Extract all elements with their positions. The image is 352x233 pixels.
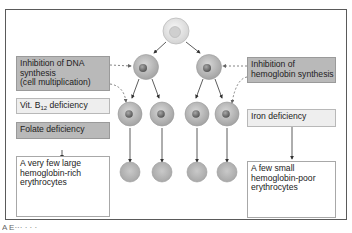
inhibition-arrow-dna (110, 65, 131, 66)
folate-label: Folate deficiency (20, 125, 106, 135)
progenitor-cell-left (134, 55, 159, 80)
arrow (186, 42, 200, 53)
label-line: hemoglobin synthesis (251, 70, 332, 80)
iron-label: Iron deficiency (251, 112, 332, 122)
small-cells-result-box: A few small hemoglobin-poor erythrocytes (247, 161, 336, 218)
label-line: erythrocytes (20, 178, 106, 188)
folate-deficiency-box: Folate deficiency (16, 122, 110, 139)
figure-caption: A E··· · · · (2, 223, 37, 233)
stem-cell (163, 18, 189, 44)
iron-deficiency-box: Iron deficiency (247, 109, 336, 127)
b12-deficiency-box: Vit. B12 deficiency (16, 98, 110, 114)
label-line: (cell multiplication) (20, 78, 106, 88)
b12-label: Vit. B12 deficiency (20, 101, 106, 111)
erythrocytes (120, 162, 237, 182)
arrow (154, 42, 166, 53)
large-cells-result-box: A very few large hemoglobin-rich erythro… (16, 156, 110, 217)
label-line: erythrocytes (251, 183, 332, 193)
progenitor-cell-right (197, 55, 222, 80)
dna-inhibition-box: Inhibition of DNA synthesis (cell multip… (16, 56, 110, 91)
precursor-cells (118, 102, 239, 126)
hb-inhibition-box: Inhibition of hemoglobin synthesis (247, 57, 336, 83)
